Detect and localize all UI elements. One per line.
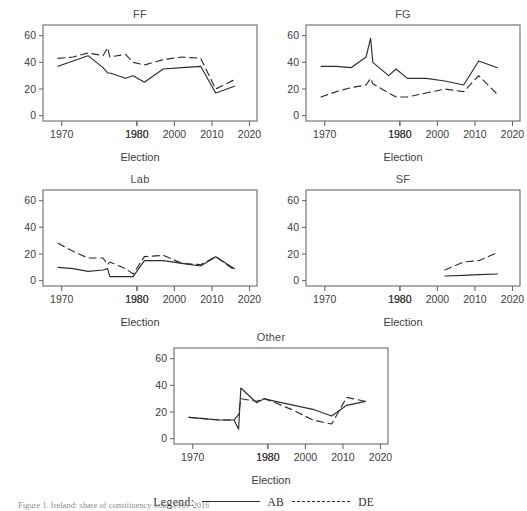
x-tick-label: 2000: [426, 293, 450, 305]
x-tick-label: 2000: [163, 128, 187, 140]
x-axis-title-sf: Election: [278, 316, 527, 328]
plot-fg: 0204060197019801980200020102020: [278, 8, 527, 173]
series-line-ab: [321, 38, 497, 85]
plot-area-fg: 0204060197019801980200020102020: [278, 8, 527, 173]
x-tick-label: 2000: [294, 451, 318, 463]
plot-lab: 0204060197019801980200020102020: [15, 173, 265, 338]
x-tick-label: 2000: [163, 293, 187, 305]
x-tick-label: 1980: [125, 128, 149, 140]
y-tick-label: 40: [24, 221, 36, 233]
figure-caption: Figure 1. Ireland: share of constituency…: [18, 500, 209, 511]
x-tick-label: 1980: [256, 451, 280, 463]
x-axis-title-fg: Election: [278, 151, 527, 163]
y-tick-label: 0: [30, 109, 36, 121]
x-tick-label: 1970: [50, 128, 74, 140]
y-tick-label: 40: [24, 56, 36, 68]
plot-ff: 0204060197019801980200020102020: [15, 8, 265, 173]
legend-solid-swatch: [202, 501, 260, 502]
x-tick-label: 2010: [463, 128, 487, 140]
y-tick-label: 40: [287, 56, 299, 68]
x-tick-label: 1970: [313, 128, 337, 140]
panel-title-lab: Lab: [15, 173, 265, 185]
x-tick-label: 1970: [50, 293, 74, 305]
plot-area-ff: 0204060197019801980200020102020: [15, 8, 265, 173]
series-line-ab: [445, 274, 498, 276]
y-tick-label: 20: [287, 83, 299, 95]
plot-sf: 0204060197019801980200020102020: [278, 173, 527, 338]
x-tick-label: 2010: [200, 128, 224, 140]
x-tick-label: 1980: [388, 128, 412, 140]
y-tick-label: 60: [24, 194, 36, 206]
y-tick-label: 0: [161, 432, 167, 444]
plot-frame: [306, 190, 520, 286]
series-line-ab: [58, 257, 234, 277]
x-axis-title-ff: Election: [15, 151, 265, 163]
x-tick-label: 2020: [501, 293, 525, 305]
y-tick-label: 0: [293, 109, 299, 121]
y-tick-label: 60: [24, 29, 36, 41]
legend-dashed-swatch: [292, 501, 350, 502]
plot-frame: [43, 25, 257, 121]
y-tick-label: 60: [155, 352, 167, 364]
x-tick-label: 1970: [313, 293, 337, 305]
y-tick-label: 0: [293, 274, 299, 286]
plot-frame: [43, 190, 257, 286]
panel-sf: SF 0204060197019801980200020102020 Elect…: [278, 173, 527, 338]
x-tick-label: 2010: [200, 293, 224, 305]
series-line-de: [445, 253, 498, 270]
plot-area-sf: 0204060197019801980200020102020: [278, 173, 527, 338]
x-tick-label: 2020: [369, 451, 393, 463]
y-tick-label: 60: [287, 194, 299, 206]
x-tick-label: 2010: [331, 451, 355, 463]
x-tick-label: 2020: [238, 128, 262, 140]
plot-frame: [306, 25, 520, 121]
y-tick-label: 20: [155, 406, 167, 418]
panel-title-ff: FF: [15, 8, 265, 20]
x-tick-label: 2020: [501, 128, 525, 140]
x-tick-label: 2020: [238, 293, 262, 305]
y-tick-label: 20: [287, 248, 299, 260]
series-line-de: [58, 243, 234, 274]
panel-ff: FF 0204060197019801980200020102020 Elect…: [15, 8, 265, 173]
series-line-de: [58, 48, 234, 89]
legend-entry-ab: AB: [268, 496, 284, 508]
plot-area-other: 0204060197019801980200020102020: [146, 331, 396, 496]
plot-frame: [174, 348, 388, 444]
x-tick-label: 1980: [125, 293, 149, 305]
plot-area-lab: 0204060197019801980200020102020: [15, 173, 265, 338]
legend-entry-de: DE: [358, 496, 373, 508]
x-tick-label: 1980: [388, 293, 412, 305]
panel-lab: Lab 0204060197019801980200020102020 Elec…: [15, 173, 265, 338]
x-tick-label: 2010: [463, 293, 487, 305]
x-axis-title-other: Election: [146, 474, 396, 486]
panel-fg: FG 0204060197019801980200020102020 Elect…: [278, 8, 527, 173]
y-tick-label: 20: [24, 83, 36, 95]
y-tick-label: 40: [287, 221, 299, 233]
plot-other: 0204060197019801980200020102020: [146, 331, 396, 496]
x-tick-label: 2000: [426, 128, 450, 140]
x-tick-label: 1970: [181, 451, 205, 463]
y-tick-label: 60: [287, 29, 299, 41]
y-tick-label: 0: [30, 274, 36, 286]
series-line-ab: [189, 388, 365, 429]
panel-title-fg: FG: [278, 8, 527, 20]
panel-title-sf: SF: [278, 173, 527, 185]
x-axis-title-lab: Election: [15, 316, 265, 328]
y-tick-label: 20: [24, 248, 36, 260]
panel-title-other: Other: [146, 331, 396, 343]
panel-other: Other 0204060197019801980200020102020 El…: [146, 331, 396, 496]
y-tick-label: 40: [155, 379, 167, 391]
